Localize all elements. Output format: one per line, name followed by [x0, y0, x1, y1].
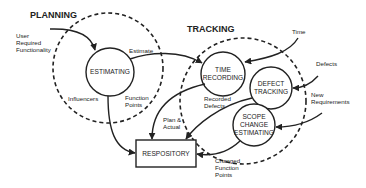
defect-tracking-line-2: TRACKING	[250, 88, 292, 96]
arrow-time-input	[245, 38, 298, 62]
changed-function-points-line-2: Function	[215, 164, 240, 171]
repository-label: RESPOSITORY	[136, 150, 196, 158]
recorded-defects-line-1: Recorded	[204, 95, 231, 102]
arrow-user-to-estimating	[50, 29, 95, 50]
new-requirements-line-2: Requirements	[311, 98, 350, 105]
scope-change-label: SCOPE CHANGE ESTIMATING	[233, 113, 275, 137]
arrow-estimate-to-time	[130, 53, 202, 63]
changed-function-points-line-3: Points	[215, 171, 240, 178]
changed-function-points-line-1: Changed	[215, 157, 240, 164]
scope-change-line-3: ESTIMATING	[233, 129, 275, 137]
estimate-label: Estimate	[129, 47, 153, 54]
function-points-line-2: Points	[125, 101, 149, 108]
changed-function-points-label: Changed Function Points	[215, 157, 240, 179]
tracking-title: TRACKING	[187, 24, 235, 34]
recorded-defects-label: Recorded Defects	[204, 95, 231, 109]
time-recording-line-1: TIME	[200, 66, 246, 74]
new-requirements-label: New Requirements	[311, 91, 350, 105]
plan-actual-line-2: Actual	[163, 123, 181, 130]
arrow-time-to-repository	[152, 84, 205, 139]
scope-change-line-2: CHANGE	[233, 121, 275, 129]
user-required-line-3: Functionality	[16, 46, 51, 53]
estimating-label: ESTIMATING	[88, 68, 132, 76]
new-requirements-line-1: New	[311, 91, 350, 98]
function-points-label: Function Points	[125, 94, 149, 108]
user-required-label: User Required Functionality	[16, 32, 51, 54]
recorded-defects-line-2: Defects	[204, 102, 231, 109]
plan-actual-line-1: Plan &	[163, 116, 181, 123]
time-recording-line-2: RECORDING	[200, 74, 246, 82]
arrow-new-requirements-input	[276, 113, 322, 127]
scope-change-line-1: SCOPE	[233, 113, 275, 121]
arrow-defects-input	[293, 76, 318, 88]
defect-tracking-line-1: DEFECT	[250, 80, 292, 88]
defect-tracking-label: DEFECT TRACKING	[250, 80, 292, 96]
user-required-line-2: Required	[16, 39, 51, 46]
arrow-scope-to-repository	[197, 141, 240, 155]
planning-title: PLANNING	[30, 10, 77, 20]
defects-label: Defects	[316, 60, 337, 67]
time-label: Time	[292, 28, 306, 35]
time-recording-label: TIME RECORDING	[200, 66, 246, 82]
user-required-line-1: User	[16, 32, 51, 39]
plan-actual-label: Plan & Actual	[163, 116, 181, 130]
function-points-line-1: Function	[125, 94, 149, 101]
influencers-label: Influencers	[68, 95, 98, 102]
